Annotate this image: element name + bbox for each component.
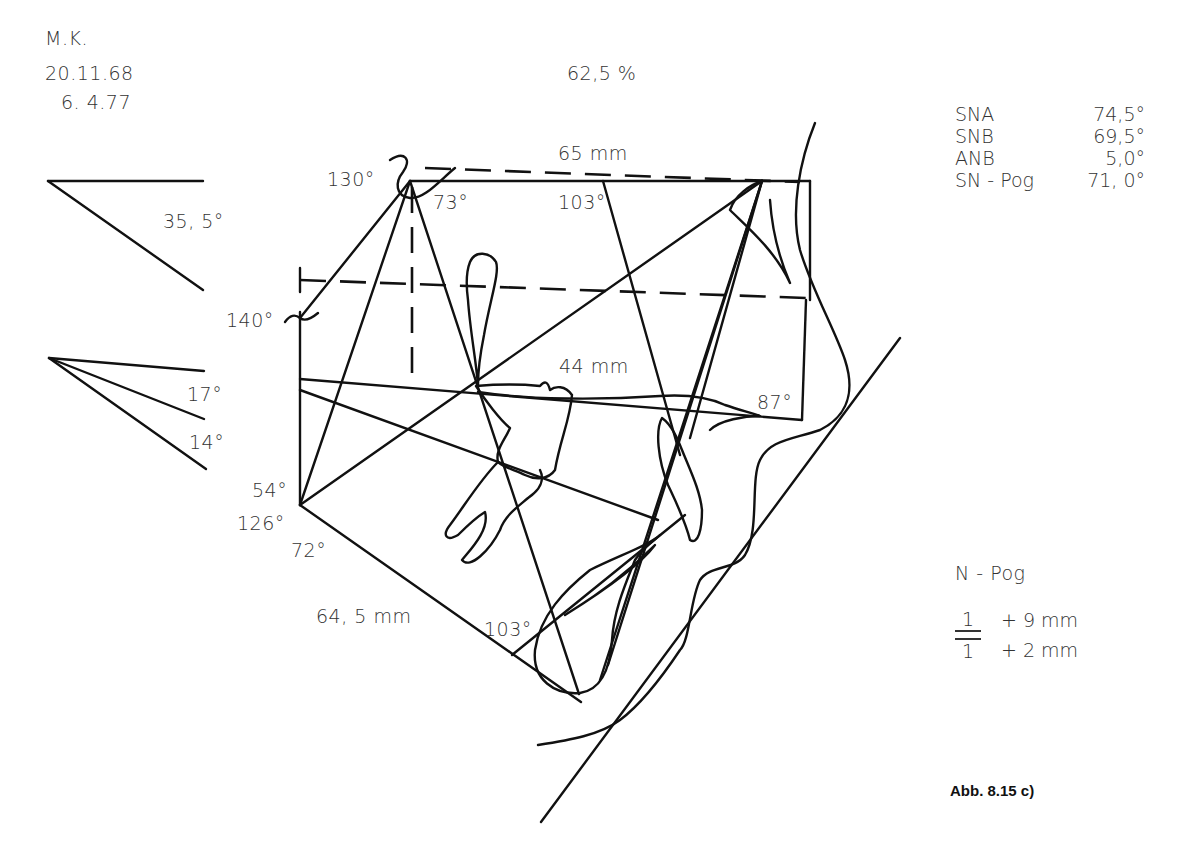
s-inner-angle-label: 73°: [433, 193, 468, 212]
measurement-value: 69,5°: [1067, 126, 1145, 148]
angle-diagram-17-14: [49, 358, 206, 469]
angle-label-14: 14°: [189, 433, 224, 452]
soft-tissue-profile: [538, 123, 849, 745]
incisor-row-lower: 1 + 2 mm: [955, 635, 1078, 665]
gonial-upper-angle-label: 54°: [252, 481, 287, 500]
measurement-row-sna: SNA 74,5°: [955, 104, 1145, 126]
measurement-value: 74,5°: [1067, 104, 1145, 126]
incisor-reference-table: 1 + 9 mm 1 + 2 mm: [955, 605, 1078, 665]
upper-incisor-symbol: 1: [955, 608, 981, 632]
measurement-row-snb: SNB 69,5°: [955, 126, 1145, 148]
mandible-length-label: 64, 5 mm: [316, 607, 411, 626]
measurement-name: SNB: [955, 126, 1067, 148]
cranial-base-length-label: 65 mm: [558, 144, 628, 163]
incisor-reference-title: N - Pog: [955, 564, 1025, 583]
figure-caption: Abb. 8.15 c): [950, 782, 1034, 799]
posterior-length-label: 44 mm: [559, 357, 629, 376]
lower-incisor-value: + 2 mm: [1001, 639, 1078, 661]
upper-incisor-value: + 9 mm: [1001, 609, 1078, 631]
measurement-row-anb: ANB 5,0°: [955, 148, 1145, 170]
menton-angle-label: 103°: [484, 620, 532, 639]
angle-label-17: 17°: [187, 385, 222, 404]
measurement-row-sn-pog: SN - Pog 71, 0°: [955, 170, 1145, 192]
n-angle-label: 103°: [558, 193, 606, 212]
measurement-value: 71, 0°: [1067, 170, 1145, 192]
occlusal-contour: [478, 392, 760, 430]
angle-label-35: 35, 5°: [163, 212, 224, 231]
measurement-name: ANB: [955, 148, 1067, 170]
angle-diagram-35: [48, 181, 203, 290]
saddle-angle-label: 130°: [327, 170, 375, 189]
incisor-row-upper: 1 + 9 mm: [955, 605, 1078, 635]
nasal-contour: [730, 181, 790, 283]
measurements-table: SNA 74,5° SNB 69,5° ANB 5,0° SN - Pog 71…: [955, 104, 1145, 191]
articular-angle-label: 140°: [226, 311, 274, 330]
gonial-lower-angle-label: 72°: [291, 541, 326, 560]
anterior-angle-label: 87°: [757, 393, 792, 412]
measurement-name: SN - Pog: [955, 170, 1067, 192]
lower-incisor-symbol: 1: [955, 638, 981, 662]
measurement-name: SNA: [955, 104, 1067, 126]
gonial-total-angle-label: 126°: [237, 514, 285, 533]
measurement-value: 5,0°: [1067, 148, 1145, 170]
